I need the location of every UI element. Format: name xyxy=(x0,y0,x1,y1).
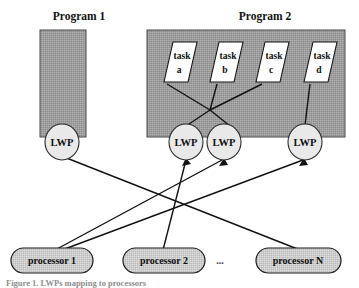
lwp-processor-diagram: Program 1 Program 2 task a task b xyxy=(0,0,359,288)
processor-1[interactable]: processor 1 xyxy=(11,248,93,273)
task-b-label-bottom: b xyxy=(222,65,227,75)
processor-n[interactable]: processor N xyxy=(256,248,341,273)
task-a-label-top: task xyxy=(174,51,192,61)
task-a-label-bottom: a xyxy=(177,65,182,75)
task-b-label-top: task xyxy=(220,51,238,61)
p2-lwp-2[interactable]: LWP xyxy=(207,124,241,160)
p2-lwp-2-label: LWP xyxy=(213,137,237,148)
program-1-box xyxy=(40,30,86,137)
task-c-label-bottom: c xyxy=(269,65,273,75)
task-d-label-top: task xyxy=(314,51,332,61)
processor-n-label: processor N xyxy=(273,255,324,266)
program-1-group: Program 1 xyxy=(40,10,105,137)
task-c-label-top: task xyxy=(266,51,284,61)
p2-lwp-3-label: LWP xyxy=(294,137,318,148)
processor-2-label: processor 2 xyxy=(140,255,188,266)
p2-lwp-1[interactable]: LWP xyxy=(169,124,203,160)
p2-lwp2-to-processor-1-line xyxy=(55,160,222,250)
lwp-processor-lines xyxy=(55,157,303,250)
figure-container: Program 1 Program 2 task a task b xyxy=(0,0,359,288)
p2-lwp-1-label: LWP xyxy=(175,137,199,148)
p2-lwp-3[interactable]: LWP xyxy=(288,124,322,160)
task-d-label-bottom: d xyxy=(316,65,322,75)
p1-lwp-label: LWP xyxy=(51,137,75,148)
program-2-title: Program 2 xyxy=(239,10,292,23)
processor-ellipsis: ... xyxy=(216,255,224,266)
processor-2[interactable]: processor 2 xyxy=(123,248,205,273)
processor-1-label: processor 1 xyxy=(28,255,76,266)
p1-lwp[interactable]: LWP xyxy=(45,124,79,160)
figure-caption: Figure 1. LWPs mapping to processors xyxy=(6,278,147,288)
program-1-title: Program 1 xyxy=(53,10,106,23)
